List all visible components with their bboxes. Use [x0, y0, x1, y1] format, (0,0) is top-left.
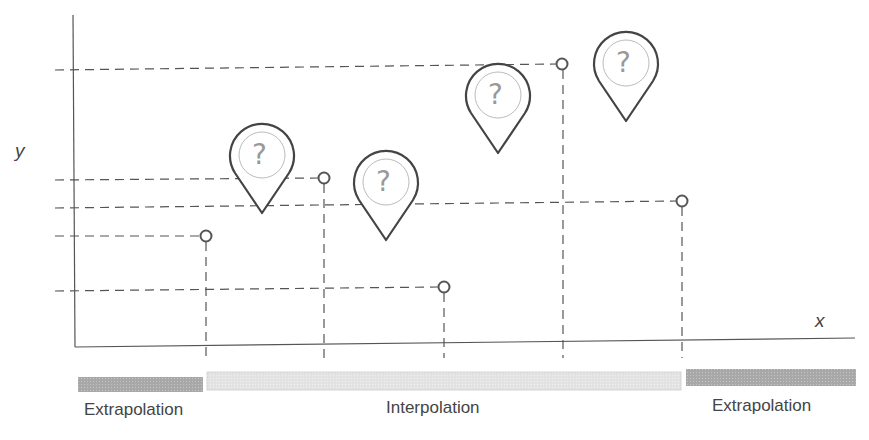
- x-axis: [75, 338, 855, 347]
- pin-question-mark: ?: [488, 78, 503, 111]
- vertical-guides: [206, 70, 682, 362]
- x-axis-label: x: [815, 310, 825, 332]
- data-point: [677, 196, 688, 207]
- extrapolation-label-right: Extrapolation: [712, 396, 811, 416]
- pin-question-mark: ?: [252, 138, 267, 171]
- extrapolation-label-left: Extrapolation: [84, 400, 183, 420]
- extrapolation-bar-left: [78, 377, 203, 392]
- data-point: [439, 282, 450, 293]
- y-axis: [73, 15, 75, 347]
- interpolation-bar: [207, 372, 681, 390]
- data-point: [319, 173, 330, 184]
- data-point: [201, 231, 212, 242]
- y-axis-label: y: [15, 140, 25, 162]
- data-point: [557, 59, 568, 70]
- pin-question-mark: ?: [376, 165, 391, 198]
- pin-question-mark: ?: [616, 46, 631, 79]
- diagram-canvas: [0, 0, 869, 440]
- extrapolation-bar-right: [686, 369, 856, 386]
- interpolation-label: Interpolation: [386, 398, 480, 418]
